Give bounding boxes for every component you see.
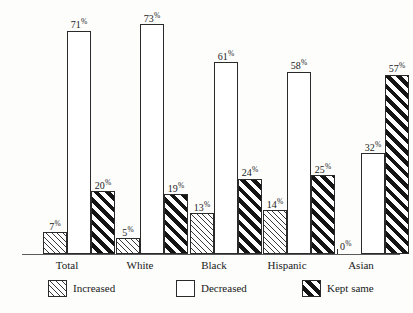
legend-swatch-icon [48, 280, 67, 297]
bar-value-label: 20% [95, 179, 112, 191]
bar-value-label: 25% [315, 163, 332, 175]
bar-value-label: 71% [71, 18, 88, 30]
legend-label: Decreased [201, 283, 247, 294]
bar-value-label: 32% [365, 141, 382, 153]
bar-value-label: 14% [267, 198, 284, 210]
bar-black-kept-same[interactable]: 24% [238, 179, 262, 254]
bar-chart: 7%71%20%5%73%19%13%61%24%14%58%25%0%32%5… [0, 0, 413, 313]
bar-white-decreased[interactable]: 73% [140, 24, 164, 254]
bar-white-kept-same[interactable]: 19% [164, 194, 188, 254]
chart-legend: IncreasedDecreasedKept same [0, 280, 413, 304]
legend-swatch-icon [302, 280, 321, 297]
bar-value-label: 0% [340, 240, 351, 252]
x-tick-label-white: White [127, 260, 154, 271]
x-tick-label-total: Total [56, 260, 78, 271]
bar-white-increased[interactable]: 5% [116, 238, 140, 254]
bar-asian-decreased[interactable]: 32% [361, 153, 385, 254]
bar-hispanic-kept-same[interactable]: 25% [311, 175, 335, 254]
x-tick-label-asian: Asian [348, 260, 374, 271]
bar-group-asian: 0%32%57% [337, 0, 409, 258]
bar-value-label: 58% [291, 59, 308, 71]
bar-value-label: 13% [194, 201, 211, 213]
bar-group-total: 7%71%20% [43, 0, 115, 258]
legend-swatch-icon [176, 280, 195, 297]
bar-total-increased[interactable]: 7% [43, 232, 67, 254]
bar-group-white: 5%73%19% [116, 0, 188, 258]
bar-value-label: 5% [122, 226, 133, 238]
legend-item-increased[interactable]: Increased [48, 280, 115, 297]
x-tick-label-black: Black [201, 260, 227, 271]
bar-total-decreased[interactable]: 71% [67, 31, 91, 254]
bar-black-increased[interactable]: 13% [190, 213, 214, 254]
x-tick-label-hispanic: Hispanic [267, 260, 306, 271]
legend-item-decreased[interactable]: Decreased [176, 280, 247, 297]
bar-black-decreased[interactable]: 61% [214, 62, 238, 254]
bar-value-label: 73% [144, 12, 161, 24]
bar-hispanic-decreased[interactable]: 58% [287, 72, 311, 254]
bar-group-hispanic: 14%58%25% [263, 0, 335, 258]
bar-group-black: 13%61%24% [190, 0, 262, 258]
legend-item-kept-same[interactable]: Kept same [302, 280, 374, 297]
x-axis-line [22, 254, 400, 255]
bar-value-label: 19% [168, 182, 185, 194]
legend-label: Increased [73, 283, 115, 294]
plot-area: 7%71%20%5%73%19%13%61%24%14%58%25%0%32%5… [0, 0, 413, 258]
legend-label: Kept same [327, 283, 374, 294]
bar-hispanic-increased[interactable]: 14% [263, 210, 287, 254]
bar-total-kept-same[interactable]: 20% [91, 191, 115, 254]
bar-value-label: 24% [242, 166, 259, 178]
bar-asian-kept-same[interactable]: 57% [385, 75, 409, 254]
bar-value-label: 57% [389, 62, 406, 74]
bar-value-label: 7% [49, 220, 60, 232]
bar-value-label: 61% [218, 50, 235, 62]
